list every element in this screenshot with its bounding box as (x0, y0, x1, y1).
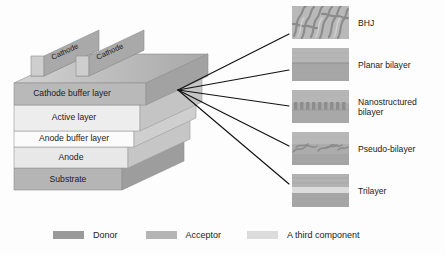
legend-label-acceptor: Acceptor (186, 230, 222, 240)
morphology-list: BHJ Planar bilayer (292, 6, 445, 216)
morphology-thumbnail-trilayer (292, 174, 349, 207)
morphology-row-bhj: BHJ (292, 6, 445, 39)
morphology-row-trilayer: Trilayer (292, 174, 445, 207)
morphology-thumbnail-planar-bilayer (292, 48, 349, 81)
legend-label-third-component: A third component (287, 230, 360, 240)
morphology-label-planar-bilayer: Planar bilayer (358, 59, 444, 70)
layer-label-active: Active layer (52, 112, 97, 122)
layer-label-anode: Anode (59, 152, 84, 162)
device-stack: Substrate Anode Anode buffer layer (0, 0, 210, 210)
morphology-label-nanostructured-bilayer: Nanostructured bilayer (358, 96, 444, 117)
legend-label-donor: Donor (93, 230, 118, 240)
legend-item-third-component: A third component (247, 230, 360, 240)
figure-canvas: Substrate Anode Anode buffer layer (0, 0, 445, 255)
layer-label-anode-buffer: Anode buffer layer (39, 133, 109, 143)
layer-label-cathode-buffer: Cathode buffer layer (33, 88, 111, 98)
morphology-label-trilayer: Trilayer (358, 185, 444, 196)
morphology-thumbnail-pseudo-bilayer (292, 132, 349, 165)
layer-label-substrate: Substrate (50, 174, 87, 184)
morphology-row-planar-bilayer: Planar bilayer (292, 48, 445, 81)
morphology-thumbnail-bhj (292, 6, 349, 39)
legend-item-donor: Donor (53, 230, 118, 240)
legend: Donor Acceptor A third component (0, 224, 445, 246)
morphology-label-pseudo-bilayer: Pseudo-bilayer (358, 143, 444, 154)
legend-item-acceptor: Acceptor (146, 230, 222, 240)
legend-swatch-donor (53, 231, 84, 239)
morphology-label-bhj: BHJ (358, 17, 444, 28)
legend-swatch-third-component (247, 231, 278, 239)
morphology-thumbnail-nanostructured-bilayer (292, 90, 349, 123)
legend-swatch-acceptor (146, 231, 177, 239)
morphology-row-nanostructured-bilayer: Nanostructured bilayer (292, 90, 445, 123)
morphology-row-pseudo-bilayer: Pseudo-bilayer (292, 132, 445, 165)
